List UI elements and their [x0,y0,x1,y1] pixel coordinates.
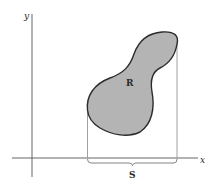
projection-label: S [129,170,136,180]
y-axis-label: y [23,11,30,21]
region-label: R [126,78,134,88]
diagram-canvas: y x R S [0,0,217,188]
projection-bracket [88,159,178,166]
x-axis-label: x [200,155,205,165]
